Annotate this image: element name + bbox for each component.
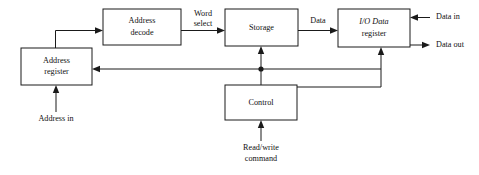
block-address-decode[interactable]: Address decode — [103, 9, 181, 45]
arrow-head-icon — [258, 120, 264, 128]
block-control[interactable]: Control — [225, 85, 297, 120]
data-in-label: Data in — [436, 12, 460, 21]
read-write-command-label-line1: Read/write — [243, 143, 279, 152]
data-label: Data — [310, 16, 326, 25]
label-data: Data — [310, 16, 326, 25]
io-data-register-label-line1: I/O Data — [358, 17, 388, 26]
label-read-write-command: Read/write command — [243, 143, 279, 163]
arrow-head-icon — [217, 27, 225, 33]
io-data-register-label-line2: register — [362, 29, 387, 38]
edge-address-in — [53, 85, 59, 112]
read-write-command-label-line2: command — [245, 154, 277, 163]
block-storage[interactable]: Storage — [225, 9, 298, 46]
block-address-register[interactable]: Address register — [21, 48, 92, 85]
edge-data-in — [410, 14, 430, 20]
storage-label: Storage — [249, 23, 274, 32]
control-label: Control — [248, 98, 274, 107]
arrow-head-icon — [422, 42, 430, 48]
data-out-label: Data out — [436, 40, 465, 49]
label-word-select: Word select — [194, 9, 213, 28]
edge-storage-to-io-data-register — [298, 27, 338, 33]
edge-address-register-to-address-decode — [56, 27, 104, 48]
arrow-head-icon — [410, 14, 418, 20]
edge-read-write-command — [258, 120, 264, 141]
bus-junction-dot — [258, 66, 263, 71]
address-register-label-line2: register — [44, 67, 69, 76]
arrow-head-icon — [53, 85, 59, 93]
block-diagram-canvas: Address register Address decode Storage … — [0, 0, 479, 175]
arrow-head-icon — [330, 27, 338, 33]
edge-data-out — [410, 42, 430, 48]
arrow-head-icon — [378, 47, 384, 55]
arrow-head-icon — [92, 66, 100, 72]
edge-feedback-bus-to-address-register — [92, 66, 381, 72]
memory-system-diagram: Address register Address decode Storage … — [0, 0, 479, 175]
address-decode-label-line1: Address — [129, 16, 156, 25]
address-in-label: Address in — [38, 114, 73, 123]
address-decode-label-line2: decode — [130, 28, 154, 37]
address-register-label-line1: Address — [43, 56, 70, 65]
edge-control-to-io-data-register — [297, 47, 384, 87]
arrow-head-icon — [258, 46, 264, 54]
arrow-head-icon — [95, 27, 103, 33]
block-io-data-register[interactable]: I/O Data register — [338, 9, 410, 47]
word-select-label-line2: select — [194, 19, 213, 28]
edge-address-decode-to-storage — [181, 27, 225, 33]
word-select-label-line1: Word — [194, 9, 212, 18]
edge-control-to-storage — [258, 46, 264, 85]
